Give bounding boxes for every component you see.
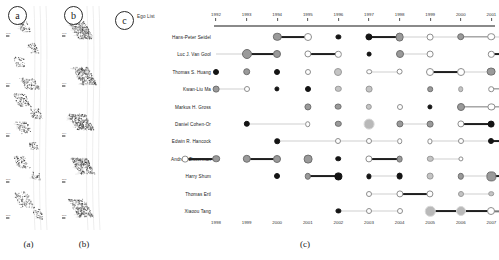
- ego-marker[interactable]: [336, 156, 342, 162]
- ego-row[interactable]: Kwan-Liu Ma: [111, 80, 499, 97]
- ego-marker[interactable]: [488, 103, 495, 110]
- ego-marker[interactable]: [335, 51, 341, 57]
- ego-marker[interactable]: [427, 190, 434, 197]
- ego-row[interactable]: Andrew Zisserman: [111, 150, 499, 167]
- ego-marker[interactable]: [243, 68, 251, 76]
- ego-marker[interactable]: [335, 121, 341, 127]
- ego-marker[interactable]: [396, 68, 403, 75]
- ego-marker[interactable]: [396, 190, 403, 197]
- ego-marker[interactable]: [458, 138, 464, 144]
- ego-marker[interactable]: [487, 172, 496, 181]
- ego-marker[interactable]: [366, 138, 372, 144]
- ego-row[interactable]: Harry Shum: [111, 168, 499, 185]
- ego-marker[interactable]: [365, 155, 372, 162]
- ego-marker[interactable]: [426, 68, 434, 76]
- ego-marker[interactable]: [425, 206, 435, 216]
- ego-marker[interactable]: [427, 173, 434, 180]
- ego-marker[interactable]: [366, 174, 371, 179]
- ego-row[interactable]: Luc J. Van Gool: [111, 45, 499, 62]
- ego-row[interactable]: Hans-Peter Seidel: [111, 28, 499, 45]
- ego-marker[interactable]: [458, 191, 464, 197]
- ego-marker[interactable]: [489, 86, 495, 92]
- ego-marker[interactable]: [456, 206, 466, 216]
- ego-marker[interactable]: [335, 103, 342, 110]
- ego-marker[interactable]: [274, 173, 280, 179]
- ego-marker[interactable]: [457, 33, 465, 41]
- ego-marker[interactable]: [365, 33, 372, 40]
- ego-marker[interactable]: [458, 173, 464, 179]
- ego-marker[interactable]: [273, 33, 281, 41]
- ego-marker[interactable]: [242, 155, 250, 163]
- ego-marker[interactable]: [182, 155, 189, 162]
- ego-marker[interactable]: [397, 208, 403, 214]
- ego-marker[interactable]: [396, 155, 403, 162]
- ego-marker[interactable]: [366, 103, 372, 109]
- ego-marker[interactable]: [305, 86, 311, 92]
- ego-marker[interactable]: [335, 86, 341, 92]
- ego-marker[interactable]: [427, 33, 434, 40]
- ego-marker[interactable]: [336, 34, 341, 39]
- ego-marker[interactable]: [488, 33, 496, 41]
- ego-marker[interactable]: [305, 69, 311, 75]
- ego-marker[interactable]: [366, 208, 372, 214]
- ego-marker[interactable]: [458, 86, 464, 92]
- ego-marker[interactable]: [396, 173, 403, 180]
- ego-marker[interactable]: [305, 121, 311, 127]
- ego-marker[interactable]: [334, 68, 342, 76]
- ego-marker[interactable]: [212, 155, 220, 163]
- ego-marker[interactable]: [427, 86, 433, 92]
- ego-marker[interactable]: [457, 68, 465, 76]
- ego-marker[interactable]: [304, 51, 311, 58]
- ego-marker[interactable]: [274, 139, 280, 145]
- ego-marker[interactable]: [366, 191, 372, 197]
- ego-row[interactable]: Daniel Cohen-Or: [111, 115, 499, 132]
- axis-tick: 2002: [334, 220, 344, 225]
- ego-marker[interactable]: [489, 191, 495, 197]
- ego-marker[interactable]: [427, 156, 433, 162]
- ego-row[interactable]: Markus H. Gross: [111, 98, 499, 115]
- ego-marker[interactable]: [243, 121, 249, 127]
- ego-row[interactable]: Thomas Ertl: [111, 185, 499, 202]
- ego-row[interactable]: Thomas S. Huang: [111, 63, 499, 80]
- ego-marker[interactable]: [488, 138, 494, 144]
- ego-marker[interactable]: [275, 86, 280, 91]
- ego-marker[interactable]: [428, 104, 433, 109]
- ego-row[interactable]: Edwin R. Hancock: [111, 133, 499, 150]
- ego-marker[interactable]: [428, 139, 433, 144]
- ego-marker[interactable]: [488, 51, 494, 57]
- ego-marker[interactable]: [273, 50, 281, 58]
- ego-marker[interactable]: [273, 155, 281, 163]
- ego-marker[interactable]: [305, 173, 311, 179]
- ego-marker[interactable]: [397, 139, 403, 145]
- ego-marker[interactable]: [427, 121, 434, 128]
- ego-marker[interactable]: [274, 69, 280, 75]
- ego-marker[interactable]: [487, 67, 496, 76]
- ego-marker[interactable]: [213, 69, 219, 75]
- ego-marker[interactable]: [213, 86, 220, 93]
- ego-marker[interactable]: [303, 154, 312, 163]
- ego-marker[interactable]: [395, 32, 404, 41]
- ego-marker[interactable]: [458, 156, 463, 161]
- ego-marker[interactable]: [304, 33, 312, 41]
- ego-marker[interactable]: [488, 121, 495, 128]
- panel-b-tag: b: [64, 6, 83, 25]
- ego-row[interactable]: Xiaoou Tang: [111, 203, 499, 220]
- ego-marker[interactable]: [336, 209, 341, 214]
- ego-marker[interactable]: [396, 50, 404, 58]
- ego-marker[interactable]: [244, 86, 250, 92]
- ego-marker[interactable]: [304, 103, 311, 110]
- ego-marker[interactable]: [457, 120, 464, 127]
- collab-link: [400, 54, 431, 55]
- ego-marker[interactable]: [364, 119, 375, 130]
- ego-marker[interactable]: [457, 103, 465, 111]
- ego-marker[interactable]: [487, 207, 495, 215]
- ego-marker[interactable]: [335, 138, 341, 144]
- ego-marker[interactable]: [396, 120, 403, 127]
- ego-marker[interactable]: [335, 173, 342, 180]
- ego-marker[interactable]: [242, 49, 252, 59]
- ego-marker[interactable]: [367, 52, 372, 57]
- ego-marker[interactable]: [397, 104, 403, 110]
- ego-marker[interactable]: [366, 69, 372, 75]
- ego-marker[interactable]: [427, 51, 434, 58]
- ego-marker[interactable]: [366, 86, 373, 93]
